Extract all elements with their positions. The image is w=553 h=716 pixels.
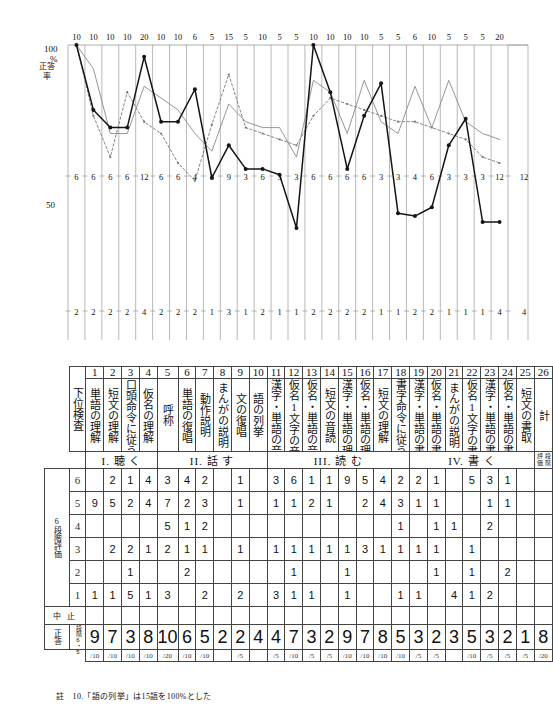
stop-cell-1[interactable]: [86, 607, 104, 625]
score-cell-24-g6[interactable]: 1: [499, 469, 517, 492]
subtest-number-21[interactable]: 21: [445, 367, 463, 379]
answer-value-4[interactable]: 8: [139, 625, 157, 650]
subtest-label-7[interactable]: 動作説明: [196, 379, 214, 452]
score-cell-11-g2[interactable]: [267, 561, 285, 584]
score-cell-20-g5[interactable]: 1: [427, 492, 445, 515]
subtest-label-25[interactable]: 短文の書取: [516, 379, 534, 452]
stop-cell-6[interactable]: [178, 607, 196, 625]
score-cell-6-g6[interactable]: 4: [178, 469, 196, 492]
answer-value-5[interactable]: 10: [157, 625, 178, 650]
subtest-label-6[interactable]: 単語の復唱: [178, 379, 196, 452]
score-cell-25-g2[interactable]: [516, 561, 534, 584]
section-ii[interactable]: II. 話 す: [157, 452, 267, 469]
subtest-number-1[interactable]: 1: [86, 367, 104, 379]
stop-cell-9[interactable]: [231, 607, 249, 625]
score-cell-12-g5[interactable]: 1: [285, 492, 303, 515]
subtest-label-16[interactable]: 仮名・単語の理解: [356, 379, 374, 452]
score-cell-21-g4[interactable]: 1: [445, 515, 463, 538]
score-cell-24-g5[interactable]: 1: [499, 492, 517, 515]
score-cell-3-g3[interactable]: 2: [122, 538, 140, 561]
subtest-number-23[interactable]: 23: [481, 367, 499, 379]
score-cell-9-g1[interactable]: 2: [231, 584, 249, 607]
score-cell-20-g1[interactable]: [427, 584, 445, 607]
score-cell-15-g6[interactable]: 9: [338, 469, 356, 492]
answer-value-12[interactable]: 7: [285, 625, 303, 650]
answer-value-15[interactable]: 9: [338, 625, 356, 650]
score-cell-12-g6[interactable]: 6: [285, 469, 303, 492]
score-cell-19-g4[interactable]: [410, 515, 428, 538]
score-cell-5-g5[interactable]: 7: [157, 492, 178, 515]
score-cell-16-g5[interactable]: 2: [356, 492, 374, 515]
score-cell-25-g3[interactable]: [516, 538, 534, 561]
subtest-number-2[interactable]: 2: [104, 367, 122, 379]
subtest-number-14[interactable]: 14: [320, 367, 338, 379]
score-cell-11-g1[interactable]: 3: [267, 584, 285, 607]
score-cell-14-g3[interactable]: 1: [320, 538, 338, 561]
score-cell-22-g1[interactable]: 1: [463, 584, 481, 607]
subtest-label-5[interactable]: 呼称: [157, 379, 178, 452]
score-cell-23-g6[interactable]: 3: [481, 469, 499, 492]
score-cell-4-g3[interactable]: 1: [139, 538, 157, 561]
score-cell-20-g3[interactable]: 1: [427, 538, 445, 561]
score-cell-4-g2[interactable]: [139, 561, 157, 584]
answer-value-20[interactable]: 2: [427, 625, 445, 650]
score-cell-15-g2[interactable]: 1: [338, 561, 356, 584]
answer-value-21[interactable]: 3: [445, 625, 463, 650]
subtest-label-23[interactable]: 漢字・単語の書取: [481, 379, 499, 452]
stop-cell-17[interactable]: [374, 607, 392, 625]
score-cell-14-g1[interactable]: [320, 584, 338, 607]
score-cell-5-g2[interactable]: [157, 561, 178, 584]
subtest-label-24[interactable]: 仮名・単語の書取: [499, 379, 517, 452]
stop-cell-23[interactable]: [481, 607, 499, 625]
subtest-number-4[interactable]: 4: [139, 367, 157, 379]
subtest-label-12[interactable]: 仮名1文字の音読: [285, 379, 303, 452]
subtest-number-5[interactable]: 5: [157, 367, 178, 379]
subtest-label-2[interactable]: 短文の理解: [104, 379, 122, 452]
subtest-label-9[interactable]: 文の復唱: [231, 379, 249, 452]
score-cell-5-g4[interactable]: 5: [157, 515, 178, 538]
score-cell-26-g3[interactable]: [534, 538, 552, 561]
score-cell-2-g6[interactable]: 2: [104, 469, 122, 492]
score-cell-20-g6[interactable]: 1: [427, 469, 445, 492]
score-cell-19-g1[interactable]: 1: [410, 584, 428, 607]
answer-value-19[interactable]: 3: [410, 625, 428, 650]
stop-cell-16[interactable]: [356, 607, 374, 625]
subtest-number-6[interactable]: 6: [178, 367, 196, 379]
score-cell-20-g2[interactable]: 1: [427, 561, 445, 584]
answer-value-2[interactable]: 7: [104, 625, 122, 650]
score-cell-24-g4[interactable]: [499, 515, 517, 538]
score-cell-7-g3[interactable]: 1: [196, 538, 214, 561]
score-cell-26-g5[interactable]: [534, 492, 552, 515]
score-cell-5-g3[interactable]: 2: [157, 538, 178, 561]
stop-cell-5[interactable]: [157, 607, 178, 625]
subtest-number-20[interactable]: 20: [427, 367, 445, 379]
score-cell-4-g4[interactable]: [139, 515, 157, 538]
subtest-number-13[interactable]: 13: [303, 367, 321, 379]
score-cell-1-g4[interactable]: [86, 515, 104, 538]
score-cell-14-g4[interactable]: [320, 515, 338, 538]
score-cell-16-g4[interactable]: [356, 515, 374, 538]
score-cell-3-g1[interactable]: 5: [122, 584, 140, 607]
answer-value-6[interactable]: 6: [178, 625, 196, 650]
answer-value-24[interactable]: 2: [499, 625, 517, 650]
subtest-number-11[interactable]: 11: [267, 367, 285, 379]
score-cell-23-g1[interactable]: 2: [481, 584, 499, 607]
score-cell-2-g2[interactable]: [104, 561, 122, 584]
stop-cell-26[interactable]: [534, 607, 552, 625]
score-cell-8-g3[interactable]: [214, 538, 232, 561]
score-cell-9-g2[interactable]: [231, 561, 249, 584]
score-cell-3-g5[interactable]: 2: [122, 492, 140, 515]
score-cell-22-g3[interactable]: 1: [463, 538, 481, 561]
stop-cell-3[interactable]: [122, 607, 140, 625]
score-cell-6-g3[interactable]: 1: [178, 538, 196, 561]
score-cell-23-g3[interactable]: [481, 538, 499, 561]
score-cell-19-g2[interactable]: [410, 561, 428, 584]
score-cell-25-g5[interactable]: [516, 492, 534, 515]
score-cell-7-g2[interactable]: [196, 561, 214, 584]
score-cell-18-g3[interactable]: 1: [392, 538, 410, 561]
score-cell-12-g4[interactable]: [285, 515, 303, 538]
score-cell-13-g3[interactable]: 1: [303, 538, 321, 561]
score-cell-6-g4[interactable]: 1: [178, 515, 196, 538]
stop-cell-22[interactable]: [463, 607, 481, 625]
score-cell-10-g6[interactable]: [249, 469, 267, 492]
